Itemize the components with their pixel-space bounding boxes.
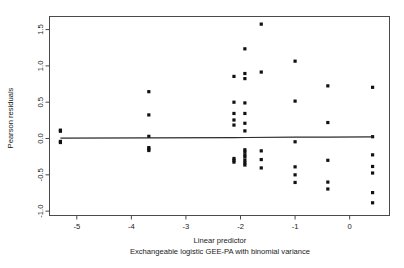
- data-point: [232, 101, 235, 104]
- data-point: [260, 23, 263, 26]
- data-point: [293, 165, 296, 168]
- data-point: [243, 155, 246, 158]
- data-point: [371, 171, 374, 174]
- y-tick-label: -0.5: [37, 168, 46, 181]
- data-point: [326, 159, 329, 162]
- data-point: [243, 150, 246, 153]
- y-tick-label: 1.5: [37, 24, 46, 35]
- data-point: [243, 77, 246, 80]
- data-point: [326, 84, 329, 87]
- data-point: [243, 72, 246, 75]
- data-point: [293, 173, 296, 176]
- y-tick-label: -1.0: [37, 205, 46, 218]
- y-tick-label: 0.5: [37, 97, 46, 108]
- data-point: [326, 187, 329, 190]
- data-point: [243, 122, 246, 125]
- data-point: [371, 153, 374, 156]
- data-point: [371, 165, 374, 168]
- data-point: [243, 112, 246, 115]
- data-point: [326, 121, 329, 124]
- data-point: [260, 158, 263, 161]
- x-tick-label: 0: [348, 222, 352, 231]
- data-point: [243, 101, 246, 104]
- data-point: [260, 166, 263, 169]
- y-axis-label: Pearson residuals: [6, 87, 15, 148]
- x-axis-label: Linear predictor: [194, 236, 247, 245]
- data-point: [260, 149, 263, 152]
- data-point: [232, 123, 235, 126]
- plot-frame: [50, 17, 390, 216]
- lowess-fit-line: [60, 137, 372, 138]
- data-point: [232, 161, 235, 164]
- data-point: [293, 140, 296, 143]
- data-point: [147, 90, 150, 93]
- data-point: [59, 141, 62, 144]
- data-point: [260, 70, 263, 73]
- y-axis-tick-group: -1.0-0.50.00.51.01.5: [37, 24, 50, 217]
- data-point: [326, 180, 329, 183]
- data-point: [147, 113, 150, 116]
- data-point: [232, 75, 235, 78]
- data-point: [293, 100, 296, 103]
- data-point: [293, 60, 296, 63]
- x-tick-label: -1: [292, 222, 299, 231]
- data-point-group: [59, 23, 374, 205]
- data-point: [59, 130, 62, 133]
- data-point: [243, 163, 246, 166]
- data-point: [147, 149, 150, 152]
- x-tick-label: -5: [73, 222, 80, 231]
- pearson-residual-plot-figure: -1.0-0.50.00.51.01.5 -5-4-3-2-10 Linear …: [0, 0, 404, 268]
- y-tick-label: 0.0: [37, 133, 46, 144]
- data-point: [293, 181, 296, 184]
- data-point: [371, 201, 374, 204]
- scatter-plot-canvas: -1.0-0.50.00.51.01.5 -5-4-3-2-10 Linear …: [0, 0, 404, 268]
- y-tick-label: 1.0: [37, 61, 46, 72]
- x-tick-label: -2: [237, 222, 244, 231]
- data-point: [232, 118, 235, 121]
- data-point: [371, 191, 374, 194]
- data-point: [232, 112, 235, 115]
- x-axis-tick-group: -5-4-3-2-10: [73, 216, 351, 231]
- data-point: [371, 86, 374, 89]
- x-tick-label: -3: [183, 222, 190, 231]
- x-axis-sublabel: Exchangeable logistic GEE-PA with binomi…: [130, 247, 310, 256]
- data-point: [243, 47, 246, 50]
- data-point: [243, 129, 246, 132]
- x-tick-label: -4: [128, 222, 135, 231]
